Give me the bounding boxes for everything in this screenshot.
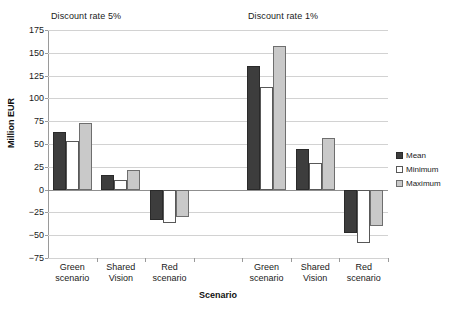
gridline-25 xyxy=(48,167,388,168)
y-tick-label-0: 0 xyxy=(39,185,44,195)
bar-minimum-4 xyxy=(260,87,273,190)
gridline--25 xyxy=(48,212,388,213)
gridline-100 xyxy=(48,98,388,99)
y-tick-label-125: 125 xyxy=(29,71,44,81)
y-tick-mark--75 xyxy=(45,258,48,259)
legend-swatch-mean-icon xyxy=(396,152,403,159)
legend-swatch-maximum-icon xyxy=(396,180,403,187)
y-tick-label-25: 25 xyxy=(34,162,44,172)
gridline-125 xyxy=(48,76,388,77)
y-tick-label-75: 75 xyxy=(34,116,44,126)
bar-minimum-1 xyxy=(114,180,127,189)
legend-item-mean[interactable]: Mean xyxy=(396,148,441,162)
bar-minimum-6 xyxy=(357,190,370,244)
bar-mean-4 xyxy=(247,66,260,189)
bar-mean-6 xyxy=(344,190,357,234)
bar-maximum-4 xyxy=(273,46,286,190)
x-category-label-line: scenario xyxy=(129,273,209,284)
bar-minimum-5 xyxy=(309,163,322,189)
y-tick-label-50: 50 xyxy=(34,139,44,149)
bar-maximum-2 xyxy=(176,190,189,217)
x-axis-title: Scenario xyxy=(48,290,388,300)
plot-area: 1751501251007550250−25−50−75 xyxy=(48,30,388,258)
y-tick-label--50: −50 xyxy=(29,230,44,240)
y-tick-mark-50 xyxy=(45,144,48,145)
panel-title-discount-rate-5: Discount rate 5% xyxy=(51,11,121,21)
y-tick-label-100: 100 xyxy=(29,93,44,103)
bar-minimum-0 xyxy=(66,141,79,189)
y-tick-label--25: −25 xyxy=(29,207,44,217)
legend-label-maximum: Maximum xyxy=(406,179,441,188)
bar-mean-5 xyxy=(296,149,309,190)
gridline-75 xyxy=(48,121,388,122)
bar-mean-2 xyxy=(150,190,163,220)
y-tick-mark--25 xyxy=(45,212,48,213)
bar-maximum-6 xyxy=(370,190,383,226)
x-category-label-line: Red xyxy=(324,262,404,273)
y-tick-label-150: 150 xyxy=(29,48,44,58)
gridline-50 xyxy=(48,144,388,145)
bar-maximum-1 xyxy=(127,170,140,189)
y-tick-mark--50 xyxy=(45,235,48,236)
y-axis-title: Million EUR xyxy=(6,88,16,158)
bar-maximum-0 xyxy=(79,123,92,190)
gridline--75 xyxy=(48,258,388,259)
y-tick-mark-125 xyxy=(45,76,48,77)
y-tick-mark-100 xyxy=(45,98,48,99)
bar-mean-1 xyxy=(101,175,114,190)
gridline-0 xyxy=(48,190,388,191)
y-tick-mark-175 xyxy=(45,30,48,31)
y-tick-mark-75 xyxy=(45,121,48,122)
x-category-label-line: scenario xyxy=(324,273,404,284)
gridline-150 xyxy=(48,53,388,54)
bar-mean-0 xyxy=(53,132,66,189)
legend-item-minimum[interactable]: Minimum xyxy=(396,162,441,176)
legend-item-maximum[interactable]: Maximum xyxy=(396,176,441,190)
gridline-175 xyxy=(48,30,388,31)
y-tick-label-175: 175 xyxy=(29,25,44,35)
legend-label-minimum: Minimum xyxy=(406,165,438,174)
bar-maximum-5 xyxy=(322,138,335,190)
x-category-label-6: Redscenario xyxy=(324,262,404,284)
bar-minimum-2 xyxy=(163,190,176,224)
y-tick-mark-25 xyxy=(45,167,48,168)
legend-label-mean: Mean xyxy=(406,151,426,160)
y-tick-mark-0 xyxy=(45,190,48,191)
y-tick-mark-150 xyxy=(45,53,48,54)
x-category-label-2: Redscenario xyxy=(129,262,209,284)
legend-swatch-minimum-icon xyxy=(396,166,403,173)
legend: MeanMinimumMaximum xyxy=(396,148,441,190)
gridline--50 xyxy=(48,235,388,236)
x-category-label-line: Red xyxy=(129,262,209,273)
bar-chart: Discount rate 5% Discount rate 1% Millio… xyxy=(0,0,455,314)
panel-title-discount-rate-1: Discount rate 1% xyxy=(248,11,318,21)
